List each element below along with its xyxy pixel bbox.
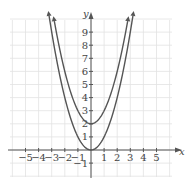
y-tick-label: 7 (82, 53, 88, 64)
curve-arrow-icon (130, 11, 135, 16)
y-tick-label: 4 (82, 92, 88, 103)
x-tick-label: 3 (127, 152, 133, 163)
y-axis-label: y (82, 8, 89, 19)
parabola-plot: −5−4−3−2−112345−1123456789xy (0, 0, 191, 181)
x-tick-label: 2 (114, 152, 120, 163)
y-tick-label: 3 (82, 105, 88, 116)
y-tick-label: −1 (73, 158, 88, 169)
x-tick-label: 1 (101, 152, 107, 163)
y-tick-label: 8 (82, 40, 88, 51)
x-tick-label: 5 (153, 152, 159, 163)
curve-arrow-icon (47, 11, 52, 16)
y-axis-arrow-icon (89, 12, 94, 19)
graph-figure: −5−4−3−2−112345−1123456789xy (0, 0, 191, 181)
x-tick-label: 4 (140, 152, 146, 163)
y-tick-label: 1 (82, 131, 88, 142)
x-axis-label: x (179, 146, 185, 157)
y-tick-label: 6 (82, 66, 88, 77)
y-tick-label: 9 (82, 27, 88, 38)
y-tick-label: 5 (82, 79, 88, 90)
